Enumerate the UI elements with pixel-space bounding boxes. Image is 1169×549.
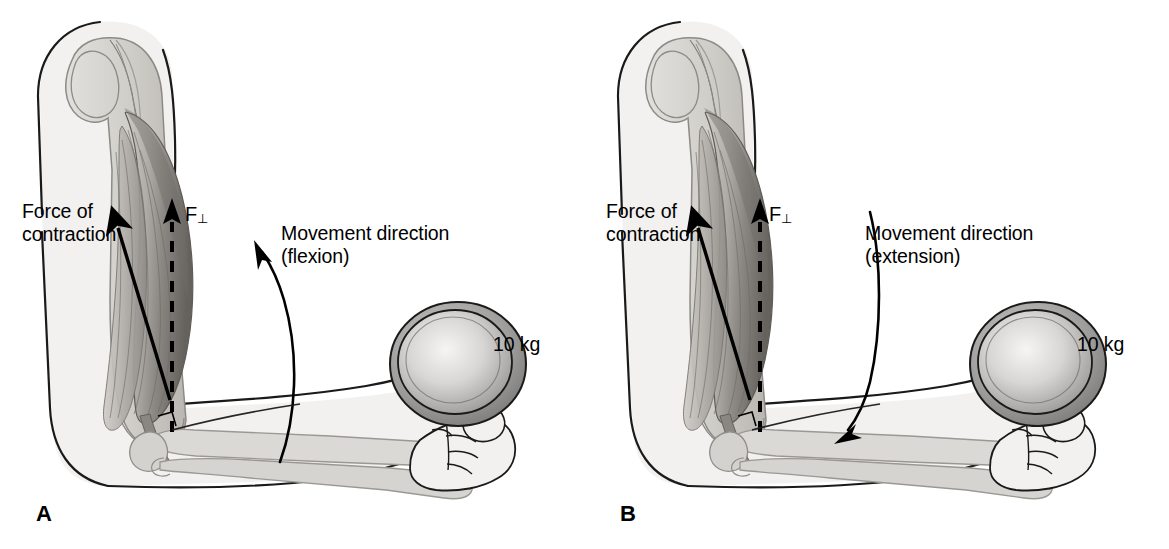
f-perpendicular-subscript: ⊥ [197, 211, 208, 226]
panel-a-illustration [0, 0, 585, 549]
weight-label: 10 kg [493, 333, 540, 356]
panel-letter-b: B [620, 503, 636, 525]
f-perpendicular-label: F⊥ [769, 203, 792, 227]
force-of-contraction-label: Force of contraction [606, 200, 700, 246]
panel-b: Force of contraction F⊥ Movement directi… [584, 0, 1169, 549]
f-perpendicular-symbol: F [185, 203, 197, 225]
weight-plate-b [970, 302, 1106, 426]
f-perpendicular-label: F⊥ [185, 203, 208, 227]
plate-face-a [398, 310, 512, 414]
plate-face-b [978, 310, 1092, 414]
movement-direction-label: Movement direction (flexion) [281, 222, 449, 268]
panel-a: Force of contraction F⊥ Movement directi… [0, 0, 585, 549]
weight-plate-a [390, 302, 526, 426]
f-perpendicular-subscript: ⊥ [781, 211, 792, 226]
panel-letter-a: A [36, 503, 52, 525]
panel-b-illustration [584, 0, 1169, 549]
force-of-contraction-label: Force of contraction [22, 200, 116, 246]
f-perpendicular-symbol: F [769, 203, 781, 225]
figure-root: Force of contraction F⊥ Movement directi… [0, 0, 1169, 549]
movement-direction-label: Movement direction (extension) [865, 222, 1033, 268]
weight-label: 10 kg [1077, 333, 1124, 356]
